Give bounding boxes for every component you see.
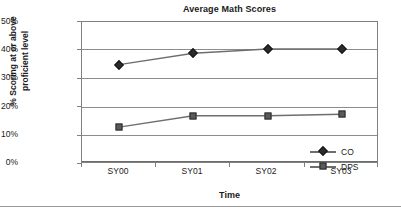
x-axis-title: Time (81, 190, 378, 200)
legend-line-co (310, 147, 336, 156)
data-point-dps-sy01 (190, 112, 197, 119)
plot-area: CO DPS (81, 21, 378, 163)
series-lines (82, 22, 379, 164)
chart-title: Average Math Scores (81, 4, 378, 14)
legend-label-co: CO (336, 147, 354, 157)
x-tick-label-sy03: SY03 (304, 166, 378, 176)
y-axis-title-line-2: proficient level (19, 0, 31, 136)
footer-divider (0, 206, 401, 207)
diamond-marker-icon (318, 146, 328, 156)
chart-figure: Average Math Scores % Scoring at or abov… (0, 0, 401, 218)
x-tick-label-sy00: SY00 (81, 166, 155, 176)
data-point-dps-sy02 (264, 112, 271, 119)
y-tick-label-0: 0% (0, 158, 18, 167)
x-tick-label-sy02: SY02 (229, 166, 303, 176)
y-tick-label-50: 50% (0, 17, 18, 26)
y-tick-label-20: 20% (0, 102, 18, 111)
data-point-dps-sy00 (116, 124, 123, 131)
y-tick-label-30: 30% (0, 73, 18, 82)
legend-item-co[interactable]: CO (310, 144, 376, 159)
data-point-dps-sy03 (338, 111, 345, 118)
y-tick-label-40: 40% (0, 45, 18, 54)
x-tick-label-sy01: SY01 (155, 166, 229, 176)
y-tick-label-10: 10% (0, 130, 18, 139)
